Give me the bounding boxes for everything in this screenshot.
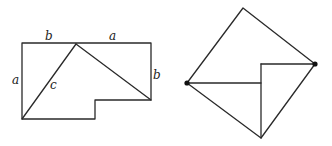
hypotenuse-second-line <box>76 44 151 100</box>
left-outline <box>22 43 151 119</box>
label-b-right: b <box>153 68 161 82</box>
right-figure <box>184 8 317 138</box>
pythagorean-dissection-diagram: b a a b c <box>0 0 332 146</box>
hypotenuse-c-line <box>22 44 76 119</box>
left-figure: b a a b c <box>12 29 161 119</box>
pivot-dot-left <box>184 80 189 85</box>
label-a-top: a <box>109 29 116 43</box>
label-b-top: b <box>45 29 53 43</box>
rotated-square-outline <box>187 8 315 138</box>
label-c-hypotenuse: c <box>50 78 57 92</box>
pivot-dot-right <box>312 61 317 66</box>
label-a-left: a <box>12 73 19 87</box>
